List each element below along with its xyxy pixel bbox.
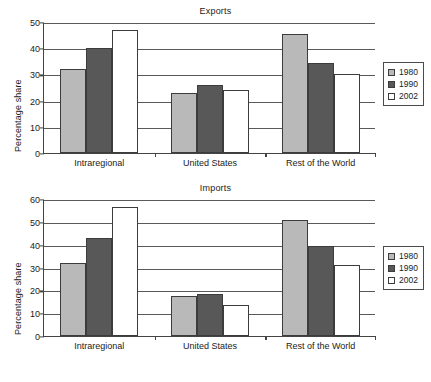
chart-panel-exports: Exports Percentage share 01020304050Intr… <box>0 0 431 180</box>
bar-1980-united-states <box>171 93 197 153</box>
plot-area-exports: 01020304050IntraregionalUnited StatesRes… <box>43 23 375 154</box>
figure: Exports Percentage share 01020304050Intr… <box>0 0 431 382</box>
y-axis-tick-mark <box>40 245 44 246</box>
bar-1990-rest-of-the-world <box>308 63 334 153</box>
bar-1980-united-states <box>171 296 197 336</box>
legend-label-1990: 1990 <box>399 80 418 89</box>
gridline <box>44 223 375 224</box>
x-axis-tick-label: Intraregional <box>74 341 124 351</box>
legend-item-1980: 1980 <box>388 66 418 78</box>
gridline <box>44 200 375 201</box>
y-axis-tick-label: 60 <box>30 195 40 205</box>
bar-1990-rest-of-the-world <box>308 246 334 336</box>
bar-2002-rest-of-the-world <box>334 265 360 336</box>
y-axis-tick-label: 30 <box>30 70 40 80</box>
legend-item-2002: 2002 <box>388 90 418 102</box>
y-axis-label-exports: Percentage share <box>13 79 23 152</box>
x-axis-tick-label: United States <box>183 341 237 351</box>
legend-swatch-2002-icon <box>388 93 395 100</box>
legend-swatch-1980-icon <box>388 69 395 76</box>
legend-label-1980: 1980 <box>399 252 418 261</box>
bar-1990-united-states <box>197 294 223 336</box>
legend-imports: 1980 1990 2002 <box>383 246 424 290</box>
bar-2002-intraregional <box>112 207 138 336</box>
bar-2002-intraregional <box>112 30 138 153</box>
legend-swatch-1990-icon <box>388 81 395 88</box>
x-axis-tick-mark <box>155 336 156 340</box>
legend-label-1990: 1990 <box>399 264 418 273</box>
y-axis-tick-label: 10 <box>30 123 40 133</box>
y-axis-tick-mark <box>40 127 44 128</box>
legend-label-1980: 1980 <box>399 68 418 77</box>
chart-title-exports: Exports <box>0 6 431 16</box>
x-axis-tick-mark <box>265 153 266 157</box>
legend-item-1990: 1990 <box>388 78 418 90</box>
plot-area-imports: 0102030405060IntraregionalUnited StatesR… <box>43 200 375 337</box>
x-axis-tick-label: Rest of the World <box>286 158 355 168</box>
legend-swatch-1980-icon <box>388 253 395 260</box>
bar-1980-intraregional <box>60 263 86 336</box>
y-axis-tick-mark <box>40 153 44 154</box>
legend-label-2002: 2002 <box>399 276 418 285</box>
y-axis-tick-label: 50 <box>30 18 40 28</box>
y-axis-tick-mark <box>40 199 44 200</box>
legend-swatch-2002-icon <box>388 277 395 284</box>
chart-panel-imports: Imports Percentage share 0102030405060In… <box>0 180 431 382</box>
y-axis-tick-label: 40 <box>30 44 40 54</box>
bar-1990-united-states <box>197 85 223 153</box>
legend-item-2002: 2002 <box>388 274 418 286</box>
bar-2002-rest-of-the-world <box>334 74 360 153</box>
y-axis-tick-mark <box>40 49 44 50</box>
y-axis-tick-label: 50 <box>30 218 40 228</box>
y-axis-tick-mark <box>40 75 44 76</box>
bar-1980-rest-of-the-world <box>282 220 308 336</box>
bar-2002-united-states <box>223 90 249 153</box>
x-axis-tick-mark <box>265 336 266 340</box>
chart-title-imports: Imports <box>0 183 431 193</box>
bar-1980-rest-of-the-world <box>282 34 308 153</box>
legend-item-1990: 1990 <box>388 262 418 274</box>
x-axis-tick-mark <box>375 153 376 157</box>
x-axis-tick-label: United States <box>183 158 237 168</box>
y-axis-tick-mark <box>40 268 44 269</box>
legend-swatch-1990-icon <box>388 265 395 272</box>
y-axis-tick-label: 30 <box>30 264 40 274</box>
x-axis-tick-mark <box>375 336 376 340</box>
y-axis-tick-mark <box>40 101 44 102</box>
bar-1980-intraregional <box>60 69 86 153</box>
y-axis-tick-mark <box>40 291 44 292</box>
y-axis-tick-label: 40 <box>30 241 40 251</box>
y-axis-tick-mark <box>40 222 44 223</box>
y-axis-tick-mark <box>40 336 44 337</box>
y-axis-tick-mark <box>40 22 44 23</box>
legend-item-1980: 1980 <box>388 250 418 262</box>
x-axis-tick-label: Intraregional <box>74 158 124 168</box>
legend-label-2002: 2002 <box>399 92 418 101</box>
y-axis-tick-label: 10 <box>30 309 40 319</box>
y-axis-tick-label: 20 <box>30 97 40 107</box>
x-axis-tick-mark <box>155 153 156 157</box>
bar-1990-intraregional <box>86 238 112 336</box>
bar-2002-united-states <box>223 305 249 336</box>
y-axis-tick-label: 20 <box>30 286 40 296</box>
legend-exports: 1980 1990 2002 <box>383 62 424 106</box>
y-axis-tick-mark <box>40 314 44 315</box>
gridline <box>44 23 375 24</box>
y-axis-label-imports: Percentage share <box>13 262 23 335</box>
x-axis-tick-label: Rest of the World <box>286 341 355 351</box>
bar-1990-intraregional <box>86 48 112 153</box>
